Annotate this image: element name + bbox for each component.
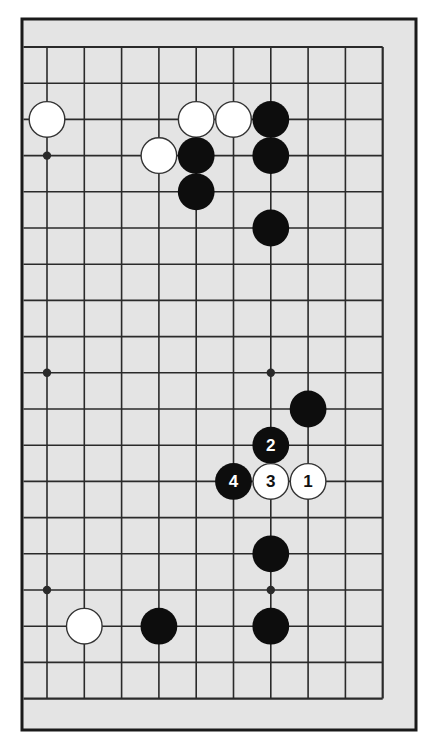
white-stone-icon — [141, 138, 177, 174]
move-number-label: 3 — [266, 472, 275, 491]
black-stone-icon — [141, 608, 178, 645]
move-number-label: 1 — [303, 472, 312, 491]
white-stone — [67, 608, 103, 644]
white-stone-3: 3 — [253, 464, 289, 500]
black-stone-4: 4 — [215, 463, 252, 500]
black-stone-icon — [252, 137, 289, 174]
white-stone-icon — [29, 102, 65, 138]
black-stone-icon — [252, 608, 289, 645]
white-stone-icon — [178, 102, 214, 138]
black-stone-icon — [252, 101, 289, 138]
white-stone-1: 1 — [290, 464, 326, 500]
white-stone — [141, 138, 177, 174]
black-stone-2: 2 — [252, 427, 289, 464]
black-stone — [178, 137, 215, 174]
black-stone — [252, 101, 289, 138]
star-point — [267, 586, 275, 594]
white-stone-icon — [67, 608, 103, 644]
black-stone — [290, 391, 327, 428]
white-stone-icon — [216, 102, 252, 138]
star-point — [43, 586, 51, 594]
star-point — [43, 151, 51, 159]
black-stone — [178, 173, 215, 210]
star-point — [267, 369, 275, 377]
black-stone-icon — [252, 210, 289, 247]
black-stone-icon — [252, 535, 289, 572]
black-stone-icon — [178, 137, 215, 174]
white-stone — [216, 102, 252, 138]
black-stone — [252, 137, 289, 174]
black-stone — [141, 608, 178, 645]
white-stone — [178, 102, 214, 138]
go-diagram: 2431 — [0, 0, 432, 750]
star-point — [43, 369, 51, 377]
black-stone — [252, 535, 289, 572]
black-stone — [252, 210, 289, 247]
black-stone — [252, 608, 289, 645]
black-stone-icon — [178, 173, 215, 210]
move-number-label: 4 — [229, 472, 239, 491]
move-number-label: 2 — [266, 436, 275, 455]
black-stone-icon — [290, 391, 327, 428]
white-stone — [29, 102, 65, 138]
